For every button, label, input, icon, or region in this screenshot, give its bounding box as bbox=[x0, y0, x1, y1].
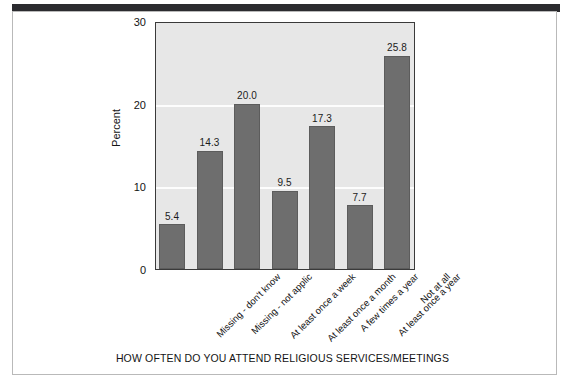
bar-value-label: 14.3 bbox=[188, 137, 232, 148]
bar[interactable] bbox=[347, 205, 373, 269]
bar-series: 5.4 14.3 20.0 9.5 17.3 7.7 bbox=[156, 23, 414, 269]
bar-value-label: 20.0 bbox=[225, 90, 269, 101]
chart-figure: 30 20 10 0 Percent 5.4 14.3 20.0 9.5 bbox=[0, 0, 565, 387]
y-tick-label: 30 bbox=[134, 16, 146, 28]
bar[interactable] bbox=[309, 126, 335, 269]
bar[interactable] bbox=[159, 224, 185, 269]
bar-slot: 14.3 bbox=[197, 23, 223, 269]
bar-value-label: 5.4 bbox=[155, 211, 194, 222]
plot-area: 5.4 14.3 20.0 9.5 17.3 7.7 bbox=[155, 22, 415, 270]
bar-value-label: 7.7 bbox=[338, 192, 382, 203]
bar[interactable] bbox=[234, 104, 260, 269]
bar-slot: 7.7 bbox=[347, 23, 373, 269]
y-axis-title: Percent bbox=[110, 109, 122, 147]
y-axis-ticks: 30 20 10 0 bbox=[118, 14, 150, 278]
x-axis-title: HOW OFTEN DO YOU ATTEND RELIGIOUS SERVIC… bbox=[0, 352, 565, 364]
bar[interactable] bbox=[384, 56, 410, 269]
y-tick-label: 20 bbox=[134, 99, 146, 111]
bar-slot: 5.4 bbox=[159, 23, 185, 269]
y-tick-label: 0 bbox=[140, 264, 146, 276]
bar-slot: 20.0 bbox=[234, 23, 260, 269]
bar[interactable] bbox=[272, 191, 298, 269]
bar-slot: 9.5 bbox=[272, 23, 298, 269]
bar-slot: 17.3 bbox=[309, 23, 335, 269]
bar-slot: 25.8 bbox=[384, 23, 410, 269]
bar[interactable] bbox=[197, 151, 223, 269]
x-axis-category-labels: Missing - don't know Missing - not appli… bbox=[155, 271, 415, 351]
bar-value-label: 9.5 bbox=[263, 177, 307, 188]
bar-value-label: 17.3 bbox=[300, 113, 344, 124]
bar-value-label: 25.8 bbox=[375, 42, 415, 53]
y-tick-label: 10 bbox=[134, 181, 146, 193]
